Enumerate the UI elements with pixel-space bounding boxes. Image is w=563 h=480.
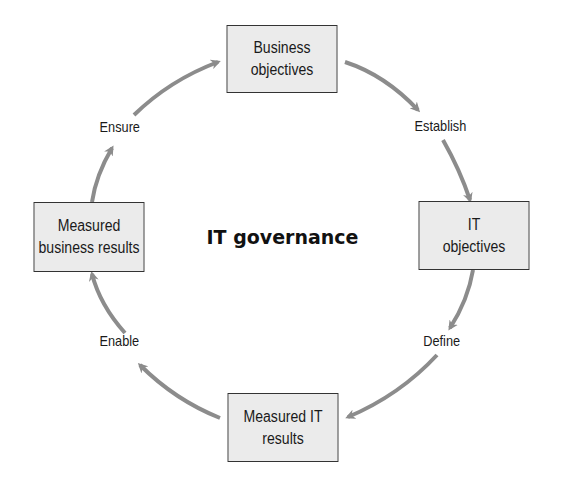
edge-label-ensure: Ensure <box>100 118 140 135</box>
node-label-line1: IT <box>468 214 481 236</box>
arrow-define-lower <box>348 355 437 417</box>
edge-label-define: Define <box>423 332 460 349</box>
node-business-objectives: Business objectives <box>227 25 338 93</box>
node-label-line1: Business <box>253 37 310 59</box>
edge-label-enable: Enable <box>100 332 140 349</box>
arrow-enable-upper <box>92 274 125 333</box>
node-label-line2: results <box>262 428 303 450</box>
arrow-define-upper <box>450 270 473 328</box>
node-it-objectives: IT objectives <box>419 201 530 270</box>
node-label-line1: Measured <box>58 215 121 237</box>
arrow-ensure-upper <box>134 62 218 115</box>
arrow-ensure-lower <box>92 148 112 202</box>
arrow-enable-lower <box>140 365 220 418</box>
node-measured-business-results: Measured business results <box>34 202 145 272</box>
node-label-line1: Measured IT <box>243 406 322 428</box>
node-label-line2: business results <box>39 237 140 259</box>
diagram-title: IT governance <box>205 226 360 248</box>
node-label-line2: objectives <box>443 236 506 258</box>
arrow-establish-lower <box>443 140 470 200</box>
node-label-line2: objectives <box>251 59 314 81</box>
node-measured-it-results: Measured IT results <box>228 393 339 462</box>
arrow-establish-upper <box>345 62 418 110</box>
edge-label-establish: Establish <box>415 117 467 134</box>
